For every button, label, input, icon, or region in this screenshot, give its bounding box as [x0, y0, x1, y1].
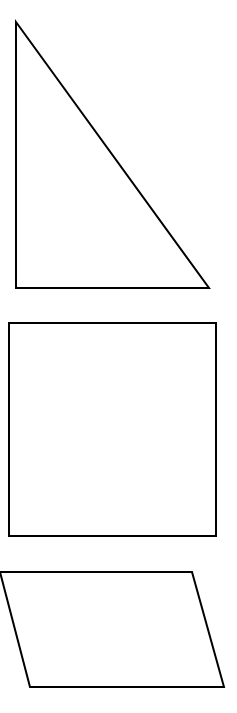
shape-canvas	[0, 0, 237, 713]
